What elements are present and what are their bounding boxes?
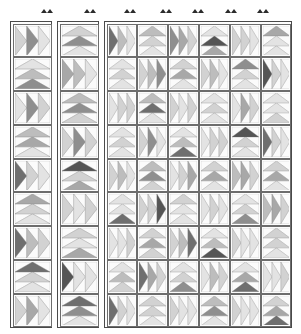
flying-geese-icon [109, 228, 136, 258]
column-marker-icon [225, 9, 238, 14]
quilt-block-cell [199, 226, 230, 260]
quilt-block-cell [13, 192, 52, 226]
flying-geese-icon [62, 26, 97, 56]
flying-geese-icon [109, 194, 136, 224]
flying-geese-icon [201, 194, 228, 224]
quilt-block-cell [230, 294, 261, 328]
flying-geese-icon [139, 59, 166, 89]
flying-geese-icon [201, 93, 228, 123]
quilt-block-cell [107, 57, 138, 91]
flying-geese-icon [139, 262, 166, 292]
flying-geese-icon [263, 59, 290, 89]
quilt-block-cell [13, 125, 52, 159]
quilt-block-cell [60, 294, 99, 328]
quilt-block-cell [13, 294, 52, 328]
quilt-block-cell [137, 57, 168, 91]
quilt-block-cell [230, 260, 261, 294]
flying-geese-icon [232, 262, 259, 292]
column-marker-icon [257, 9, 270, 14]
quilt-block-cell [13, 57, 52, 91]
quilt-block-cell [199, 57, 230, 91]
flying-geese-icon [263, 228, 290, 258]
quilt-block-cell [60, 91, 99, 125]
flying-geese-icon [139, 161, 166, 191]
flying-geese-icon [201, 161, 228, 191]
flying-geese-icon [170, 262, 197, 292]
flying-geese-icon [62, 194, 97, 224]
quilt-block-cell [168, 91, 199, 125]
flying-geese-icon [170, 296, 197, 326]
flying-geese-icon [170, 194, 197, 224]
flying-geese-icon [232, 127, 259, 157]
quilt-block-cell [137, 226, 168, 260]
quilt-block-cell [261, 57, 292, 91]
column-marker-icon [84, 9, 97, 14]
flying-geese-icon [15, 26, 50, 56]
flying-geese-icon [109, 59, 136, 89]
flying-geese-icon [62, 262, 97, 292]
quilt-block-cell [60, 192, 99, 226]
flying-geese-icon [139, 228, 166, 258]
quilt-block-cell [168, 226, 199, 260]
flying-geese-icon [263, 26, 290, 56]
quilt-block-cell [60, 24, 99, 58]
quilt-block-cell [107, 294, 138, 328]
quilt-block-cell [107, 192, 138, 226]
flying-geese-icon [263, 127, 290, 157]
flying-geese-icon [232, 228, 259, 258]
flying-geese-icon [109, 161, 136, 191]
quilt-block-cell [168, 260, 199, 294]
flying-geese-icon [201, 26, 228, 56]
quilt-block-cell [230, 226, 261, 260]
quilt-block-cell [199, 24, 230, 58]
flying-geese-icon [139, 26, 166, 56]
flying-geese-icon [170, 228, 197, 258]
quilt-block-cell [13, 91, 52, 125]
quilt-block-cell [230, 91, 261, 125]
quilt-block-cell [13, 159, 52, 193]
quilt-block-cell [261, 91, 292, 125]
flying-geese-icon [109, 26, 136, 56]
quilt-block-cell [107, 159, 138, 193]
quilt-block-cell [261, 260, 292, 294]
flying-geese-icon [15, 228, 50, 258]
flying-geese-icon [201, 59, 228, 89]
quilt-pattern-figure [0, 0, 301, 334]
quilt-block-cell [199, 294, 230, 328]
quilt-block-cell [230, 24, 261, 58]
quilt-block-cell [199, 192, 230, 226]
quilt-block-cell [261, 24, 292, 58]
column-marker-icon [160, 9, 173, 14]
quilt-block-cell [60, 226, 99, 260]
flying-geese-icon [232, 194, 259, 224]
panel-col-1 [10, 21, 52, 328]
flying-geese-icon [62, 161, 97, 191]
quilt-block-cell [107, 91, 138, 125]
flying-geese-icon [109, 127, 136, 157]
quilt-block-cell [137, 260, 168, 294]
flying-geese-icon [62, 93, 97, 123]
quilt-block-cell [137, 125, 168, 159]
flying-geese-icon [201, 296, 228, 326]
flying-geese-icon [139, 93, 166, 123]
flying-geese-icon [139, 127, 166, 157]
quilt-block-cell [137, 91, 168, 125]
flying-geese-icon [139, 296, 166, 326]
quilt-block-cell [230, 159, 261, 193]
flying-geese-icon [15, 296, 50, 326]
flying-geese-icon [109, 262, 136, 292]
quilt-block-cell [137, 159, 168, 193]
flying-geese-icon [15, 59, 50, 89]
flying-geese-icon [263, 262, 290, 292]
quilt-block-cell [168, 192, 199, 226]
quilt-block-cell [168, 57, 199, 91]
quilt-block-cell [168, 24, 199, 58]
flying-geese-icon [170, 127, 197, 157]
column-marker-icon [192, 9, 205, 14]
quilt-block-cell [107, 24, 138, 58]
flying-geese-icon [62, 59, 97, 89]
flying-geese-icon [263, 93, 290, 123]
panel-col-2 [57, 21, 99, 328]
column-marker-icon [41, 9, 54, 14]
quilt-block-cell [137, 24, 168, 58]
